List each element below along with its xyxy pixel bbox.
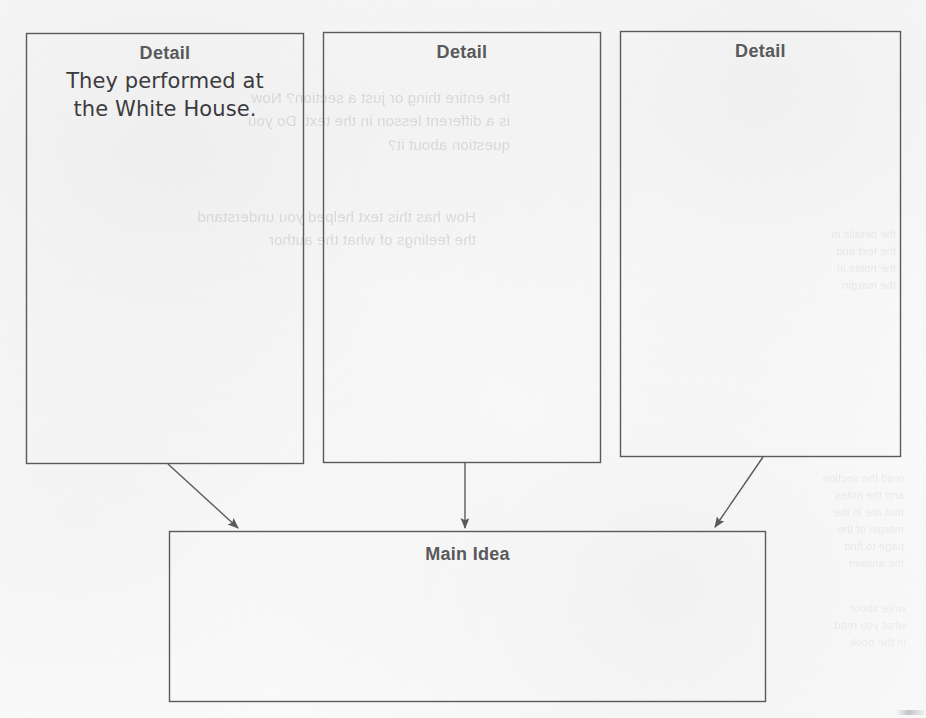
worksheet-page: the entire thing or just a section? Now … xyxy=(0,0,926,718)
detail-box-2[interactable] xyxy=(324,33,601,463)
detail-box-3[interactable] xyxy=(621,32,901,457)
detail-box-1-answer[interactable]: They performed at the White House. xyxy=(30,68,300,123)
main-idea-heading: Main Idea xyxy=(169,544,766,565)
connector-detail-1 xyxy=(168,464,238,528)
connector-detail-3 xyxy=(715,457,763,527)
detail-box-1-heading: Detail xyxy=(26,43,304,64)
detail-box-2-heading: Detail xyxy=(323,42,601,63)
detail-box-3-heading: Detail xyxy=(620,41,901,62)
